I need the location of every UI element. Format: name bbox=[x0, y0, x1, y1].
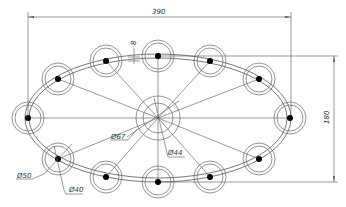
spoke bbox=[106, 61, 158, 118]
spoke bbox=[158, 61, 210, 118]
hub-outer-diameter-label: Ø67 bbox=[110, 133, 126, 141]
cup bbox=[90, 161, 122, 193]
mount-point bbox=[287, 115, 293, 121]
mount-point bbox=[55, 76, 61, 82]
center-hub: Ø67 Ø44 bbox=[110, 96, 185, 157]
width-dimension: 390 bbox=[28, 8, 291, 118]
mount-point bbox=[103, 174, 109, 180]
mount-point bbox=[207, 174, 213, 180]
cup bbox=[243, 63, 275, 95]
mount-point bbox=[155, 179, 161, 185]
mount-point bbox=[155, 53, 161, 59]
mount-point bbox=[103, 58, 109, 64]
height-dimension-label: 180 bbox=[323, 110, 331, 124]
cup bbox=[42, 63, 74, 95]
cup bbox=[243, 143, 275, 175]
technical-drawing: 390 180 Ø67 Ø44 8 Ø50 bbox=[0, 0, 346, 207]
mount-point bbox=[256, 156, 262, 162]
tube-thickness-label: 8 bbox=[130, 40, 138, 45]
tube-thickness-dimension: 8 bbox=[128, 40, 140, 64]
cup-outer-diameter-label: Ø50 bbox=[16, 172, 32, 180]
hub-inner-diameter-label: Ø44 bbox=[167, 149, 182, 157]
cup-inner-diameter-label: Ø40 bbox=[68, 186, 84, 194]
mount-point bbox=[256, 76, 262, 82]
cup bbox=[194, 161, 226, 193]
mount-point bbox=[25, 115, 31, 121]
width-dimension-label: 390 bbox=[152, 8, 166, 16]
mount-point bbox=[207, 58, 213, 64]
